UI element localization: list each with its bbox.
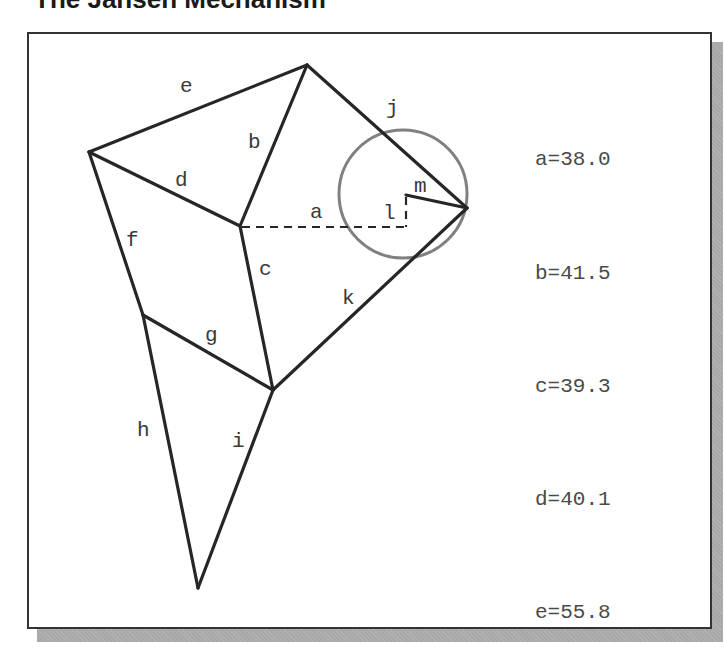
link-e [89,65,307,152]
legend-item-a: a=38.0 [535,141,611,179]
label-m: m [414,175,427,198]
link-i [198,390,273,588]
linkage-diagram: e b d j a l m f c k g h i [0,0,724,653]
label-e: e [180,75,193,98]
legend-item-d: d=40.1 [535,481,611,519]
label-i: i [232,430,245,453]
label-f: f [126,229,139,252]
legend-item-e: e=55.8 [535,594,611,632]
link-j [307,65,467,208]
label-j: j [386,97,399,120]
label-g: g [205,324,218,347]
link-c [240,226,273,390]
label-k: k [342,287,355,310]
label-a: a [310,201,323,224]
label-d: d [175,169,188,192]
legend-item-c: c=39.3 [535,368,611,406]
label-c: c [259,258,272,281]
link-h [143,315,198,588]
label-h: h [137,419,150,442]
link-k [273,208,467,390]
label-b: b [248,131,261,154]
label-l: l [383,202,396,225]
legend-item-b: b=41.5 [535,255,611,293]
link-length-legend: a=38.0 b=41.5 c=39.3 d=40.1 e=55.8 f=39.… [535,66,611,653]
link-d [89,152,240,226]
